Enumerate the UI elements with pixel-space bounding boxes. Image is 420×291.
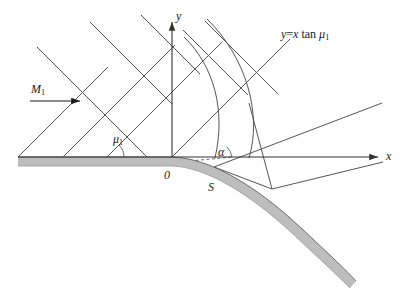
right-running-mach-waves: [18, 39, 290, 157]
equation-rhs-subscript: 1: [325, 33, 329, 42]
mach-wave-rr-3: [107, 42, 222, 157]
alpha-angle-mark: [190, 147, 232, 161]
mach-wave-rr-1: [18, 67, 108, 157]
wall-boundary: [18, 157, 356, 288]
diagram-canvas: [0, 0, 420, 291]
downstream-mach-rays: [214, 103, 383, 189]
wall-body: [18, 157, 356, 288]
mach-angle-label: μ1: [113, 133, 123, 147]
mach-wave-rr-5: [172, 39, 290, 157]
x-axis-label: x: [386, 150, 391, 162]
mach-angle-subscript: 1: [119, 138, 123, 147]
turn-angle-label: α: [218, 146, 224, 158]
downstream-ray-lower: [272, 162, 383, 189]
mach-number-symbol: M: [31, 82, 41, 96]
mach-number-label: M1: [31, 83, 45, 97]
wall-surface-line: [18, 157, 356, 281]
left-running-mach-waves: [37, 15, 278, 157]
y-axis-label: y: [176, 10, 181, 22]
origin-label: 0: [164, 169, 170, 181]
mach-wave-diagram: y x 0 S M1 μ1 α y=x tan μ1: [0, 0, 420, 291]
equation-tan: tan: [301, 27, 316, 41]
mach-number-subscript: 1: [41, 88, 45, 97]
mach-wave-lr-5: [205, 21, 278, 94]
expansion-fan-arcs: [184, 19, 254, 158]
alpha-angle-arc: [227, 147, 232, 157]
sonic-point-label: S: [208, 181, 214, 193]
mach-line-equation-label: y=x tan μ1: [281, 28, 329, 42]
mach-wave-lr-1: [37, 47, 147, 157]
